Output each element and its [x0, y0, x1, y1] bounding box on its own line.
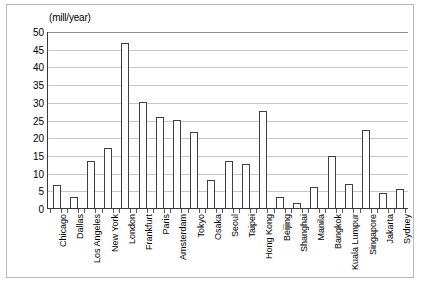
x-axis-category-label-text: New York: [111, 214, 120, 252]
bar: [328, 156, 336, 208]
x-axis-tick: [239, 209, 240, 213]
x-axis-tick: [250, 209, 251, 213]
x-axis-tick: [136, 209, 137, 213]
bar: [53, 185, 61, 208]
x-axis-category-label: Singapore: [369, 214, 378, 255]
x-axis-tick: [102, 209, 103, 213]
x-axis-category-label: Paris: [162, 214, 171, 235]
x-axis-tick: [164, 209, 165, 213]
x-axis-tick: [308, 209, 309, 213]
x-axis-category-label-text: Hong Kong: [265, 214, 274, 259]
x-axis-tick: [285, 209, 286, 213]
x-axis-category-label: New York: [111, 214, 120, 252]
x-axis-tick: [291, 209, 292, 213]
x-axis-tick: [147, 209, 148, 213]
bar: [293, 203, 301, 208]
x-axis-tick: [205, 209, 206, 213]
x-axis-tick: [113, 209, 114, 213]
x-axis-category-label: Tokyo: [197, 214, 206, 238]
x-axis-category-label-text: Taipei: [248, 214, 257, 238]
x-axis-category-label-text: Paris: [162, 214, 171, 235]
x-axis-category-label: Frankfurt: [145, 214, 154, 250]
x-axis-category-label-text: Manila: [317, 214, 326, 241]
bar: [139, 102, 147, 208]
bar-series: [48, 32, 408, 208]
x-axis-category-label: Sydney: [403, 214, 412, 244]
x-axis-category-label-text: Tokyo: [197, 214, 206, 238]
x-axis-category-label-text: Kuala Lumpur: [351, 214, 360, 270]
bar: [259, 111, 267, 208]
y-axis-tick-label: 5: [10, 186, 44, 197]
x-axis-category-label-text: Seoul: [231, 214, 240, 237]
plot-area: [47, 32, 408, 209]
chart-frame: (mill/year) 05101520253035404550 Chicago…: [6, 4, 414, 278]
x-axis-category-label-text: Sydney: [403, 214, 412, 244]
y-axis-tick-label: 35: [10, 80, 44, 91]
x-axis-category-label: London: [128, 214, 137, 244]
x-axis-tick: [267, 209, 268, 213]
y-axis-tick-labels: 05101520253035404550: [7, 32, 44, 209]
y-axis-tick-label: 40: [10, 62, 44, 73]
x-axis-tick: [50, 209, 51, 213]
x-axis-tick: [371, 209, 372, 213]
x-axis-category-label: Los Angeles: [93, 214, 102, 263]
x-axis-category-label: Bangkok: [334, 214, 343, 249]
x-axis-category-label: Osaka: [214, 214, 223, 240]
x-axis-category-labels: ChicagoDallasLos AngelesNew YorkLondonFr…: [47, 214, 408, 276]
bar: [104, 148, 112, 208]
x-axis-category-label: Hong Kong: [265, 214, 274, 259]
bar: [276, 197, 284, 208]
x-axis-tick: [170, 209, 171, 213]
x-axis-category-label-text: Frankfurt: [145, 214, 154, 250]
x-axis-category-label: Beijing: [283, 214, 292, 241]
x-axis-category-label: Seoul: [231, 214, 240, 237]
x-axis-category-label-text: Osaka: [214, 214, 223, 240]
x-axis-tick: [319, 209, 320, 213]
x-axis-category-label-text: Los Angeles: [93, 214, 102, 263]
x-axis-category-label: Shanghai: [300, 214, 309, 252]
x-axis-tick: [84, 209, 85, 213]
y-axis-tick-label: 0: [10, 204, 44, 215]
bar: [121, 43, 129, 208]
x-axis-tick: [405, 209, 406, 213]
bar: [225, 161, 233, 208]
x-axis-category-label: Taipei: [248, 214, 257, 238]
bar: [156, 117, 164, 208]
x-axis-tick: [233, 209, 234, 213]
y-axis-unit-caption: (mill/year): [49, 12, 91, 23]
x-axis-category-label: Chicago: [59, 214, 68, 247]
x-axis-tick: [130, 209, 131, 213]
x-axis-tick: [360, 209, 361, 213]
x-axis-category-label: Dallas: [76, 214, 85, 239]
x-axis-tick: [388, 209, 389, 213]
x-axis-tick: [78, 209, 79, 213]
x-axis-tick: [188, 209, 189, 213]
x-axis-tick: [153, 209, 154, 213]
x-axis-tick: [325, 209, 326, 213]
bar: [362, 130, 370, 208]
x-axis-tick: [67, 209, 68, 213]
x-axis-tick: [377, 209, 378, 213]
bar: [345, 184, 353, 208]
x-axis-category-label: Kuala Lumpur: [351, 214, 360, 270]
x-axis-tick: [199, 209, 200, 213]
x-axis-tick: [95, 209, 96, 213]
x-axis-category-label-text: London: [128, 214, 137, 244]
x-axis-tick: [222, 209, 223, 213]
bar: [242, 164, 250, 208]
x-axis-tick: [336, 209, 337, 213]
x-axis-category-label: Manila: [317, 214, 326, 241]
x-axis-category-label-text: Dallas: [76, 214, 85, 239]
bar: [87, 161, 95, 208]
bar: [396, 189, 404, 208]
x-axis-category-label-text: Bangkok: [334, 214, 343, 249]
x-axis-category-label: Jakarta: [386, 214, 395, 244]
bar: [173, 120, 181, 208]
x-axis-tick: [181, 209, 182, 213]
x-axis-tick: [394, 209, 395, 213]
x-axis-tick: [119, 209, 120, 213]
y-axis-tick-label: 50: [10, 27, 44, 38]
x-axis-tick: [216, 209, 217, 213]
x-axis-category-label-text: Beijing: [283, 214, 292, 241]
x-axis-tick: [342, 209, 343, 213]
